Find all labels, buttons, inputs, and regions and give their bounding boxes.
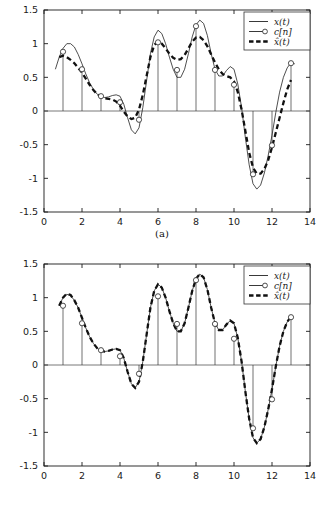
x-tick-label: 10: [228, 216, 240, 227]
x-tick-label: 8: [193, 216, 199, 227]
stem-marker: [250, 426, 255, 431]
x-tick-label: 14: [304, 216, 316, 227]
stem-marker: [231, 336, 236, 341]
y-tick-label: 0: [32, 359, 38, 370]
legend-label: x(t): [274, 271, 290, 281]
x-tick-label: 4: [117, 470, 123, 481]
stem-marker: [117, 100, 122, 105]
plot-panel-a: 02468101214-1.5-1-0.500.511.5x(t)c[n]x̂(…: [0, 0, 324, 254]
legend-marker-c-n: [263, 283, 268, 288]
stem-marker: [79, 321, 84, 326]
x-tick-label: 4: [117, 216, 123, 227]
y-tick-label: 1.5: [23, 258, 38, 269]
stem-marker: [155, 294, 160, 299]
x-tick-label: 12: [266, 216, 278, 227]
stem-marker: [60, 303, 65, 308]
x-tick-label: 2: [79, 216, 85, 227]
y-tick-label: 1: [32, 38, 38, 49]
figure-root: 02468101214-1.5-1-0.500.511.5x(t)c[n]x̂(…: [0, 0, 324, 508]
legend-marker-c-n: [263, 29, 268, 34]
stem-marker: [212, 321, 217, 326]
x-tick-label: 8: [193, 470, 199, 481]
stem-marker: [212, 67, 217, 72]
x-tick-label: 0: [41, 216, 47, 227]
legend-label: x(t): [274, 17, 290, 27]
plot-b-canvas: 02468101214-1.5-1-0.500.511.5x(t)c[n]x̂(…: [0, 254, 324, 508]
panel-a-caption: (a): [0, 228, 324, 239]
stem-marker: [193, 24, 198, 29]
stem-marker: [174, 67, 179, 72]
stem-marker: [288, 315, 293, 320]
x-tick-label: 12: [266, 470, 278, 481]
stem-marker: [193, 278, 198, 283]
stem-marker: [174, 321, 179, 326]
legend: x(t)c[n]x̂(t): [244, 12, 310, 50]
stem-marker: [155, 40, 160, 45]
stem-marker: [98, 348, 103, 353]
legend: x(t)c[n]x̂(t): [244, 266, 310, 304]
y-tick-label: -1.5: [19, 206, 38, 217]
x-tick-label: 6: [155, 470, 161, 481]
legend-label: x̂(t): [274, 291, 290, 301]
stem-marker: [269, 397, 274, 402]
x-tick-label: 2: [79, 470, 85, 481]
y-tick-label: -0.5: [19, 393, 38, 404]
legend-label: x̂(t): [274, 37, 290, 47]
y-tick-label: -1.5: [19, 460, 38, 471]
stem-marker: [136, 117, 141, 122]
stem-marker: [79, 67, 84, 72]
y-tick-label: -1: [29, 173, 38, 184]
y-tick-label: 1.5: [23, 4, 38, 15]
stem-marker: [250, 172, 255, 177]
stem-marker: [231, 82, 236, 87]
x-tick-label: 0: [41, 470, 47, 481]
y-tick-label: 0.5: [23, 72, 38, 83]
y-tick-label: 0: [32, 105, 38, 116]
plot-panel-b: 02468101214-1.5-1-0.500.511.5x(t)c[n]x̂(…: [0, 254, 324, 508]
stem-marker: [136, 371, 141, 376]
y-tick-label: 1: [32, 292, 38, 303]
y-tick-label: -1: [29, 427, 38, 438]
legend-label: c[n]: [274, 281, 292, 291]
x-tick-label: 14: [304, 470, 316, 481]
plot-a-canvas: 02468101214-1.5-1-0.500.511.5x(t)c[n]x̂(…: [0, 0, 324, 254]
y-tick-label: -0.5: [19, 139, 38, 150]
x-tick-label: 6: [155, 216, 161, 227]
stem-marker: [269, 143, 274, 148]
stem-marker: [98, 94, 103, 99]
stem-marker: [60, 49, 65, 54]
legend-label: c[n]: [274, 27, 292, 37]
stem-marker: [117, 354, 122, 359]
stem-marker: [288, 61, 293, 66]
y-tick-label: 0.5: [23, 326, 38, 337]
x-tick-label: 10: [228, 470, 240, 481]
